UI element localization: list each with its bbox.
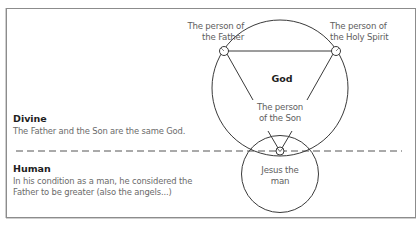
spirit-son-edge	[307, 54, 333, 100]
divine-text: The Father and the Son are the same God.	[13, 126, 185, 137]
son-right-edge	[282, 131, 292, 148]
human-text: In his condition as a man, he considered…	[13, 176, 192, 198]
father-label: The person of the Father	[164, 21, 244, 42]
god-label: God	[262, 73, 302, 84]
divine-heading: Divine	[13, 113, 47, 124]
father-son-edge	[227, 54, 253, 100]
son-label: The person of the Son	[250, 102, 310, 123]
human-heading: Human	[13, 163, 51, 174]
jesus-label: Jesus the man	[250, 165, 310, 186]
son-left-edge	[268, 131, 278, 148]
holy-spirit-label: The person of the Holy Spirit	[330, 21, 388, 42]
